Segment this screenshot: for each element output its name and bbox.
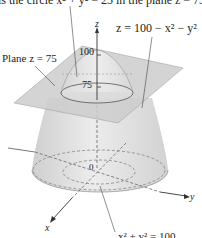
- plane-label: Plane z = 75: [2, 52, 57, 64]
- bottom-equation-label: x² + y² = 100: [118, 230, 176, 238]
- z-tick-100: 100: [79, 46, 94, 57]
- origin-label: 0: [89, 162, 94, 172]
- x-axis-back-line: [8, 148, 35, 152]
- y-axis-line: [160, 192, 186, 196]
- y-axis-label: y: [190, 191, 194, 202]
- x-axis-line: [52, 198, 72, 220]
- bottom-leader-line: [100, 186, 115, 232]
- paraboloid-figure: is the circle x² + y² = 25 in the plane …: [0, 0, 202, 238]
- z-axis-label: z: [95, 18, 99, 29]
- caption-top-text: is the circle x² + y² = 25 in the plane …: [0, 0, 202, 8]
- x-axis-label: x: [45, 222, 49, 233]
- z-tick-75: 75: [82, 79, 92, 90]
- surface-equation-label: z = 100 − x² − y²: [116, 21, 197, 36]
